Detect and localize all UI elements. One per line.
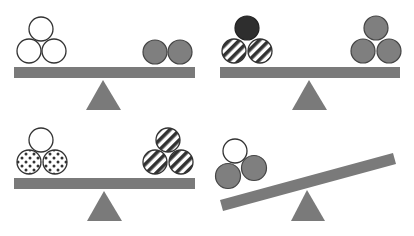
diagram-canvas (0, 0, 414, 236)
panel-2 (220, 16, 401, 110)
left-pan-balls (216, 139, 267, 189)
beam (220, 67, 400, 78)
striped-ball (156, 128, 180, 152)
left-pan-balls (17, 17, 66, 63)
striped-ball (143, 150, 167, 174)
fulcrum-triangle (291, 190, 325, 221)
beam (14, 67, 195, 78)
dotted-ball (43, 150, 67, 174)
left-pan-balls (17, 128, 67, 174)
striped-ball (248, 39, 272, 63)
gray-ball (377, 39, 401, 63)
gray-ball (143, 40, 167, 64)
dotted-ball (17, 150, 41, 174)
panel-1 (14, 17, 195, 110)
fulcrum-triangle (292, 80, 327, 110)
right-pan-balls (143, 40, 192, 64)
fulcrum-triangle (86, 80, 121, 110)
balance-scale-diagram (0, 0, 414, 236)
gray-ball (242, 156, 267, 181)
striped-ball (169, 150, 193, 174)
white-ball (17, 39, 41, 63)
right-pan-balls (143, 128, 193, 174)
white-ball (223, 139, 247, 163)
left-pan-balls (222, 16, 272, 63)
striped-ball (222, 39, 246, 63)
panel-3 (14, 128, 195, 221)
white-ball (42, 39, 66, 63)
gray-ball (364, 16, 388, 40)
white-ball (29, 128, 53, 152)
white-ball (29, 17, 53, 41)
gray-ball (168, 40, 192, 64)
gray-ball (216, 164, 241, 189)
black-ball (235, 16, 259, 40)
right-pan-balls (351, 16, 401, 63)
beam (14, 178, 195, 189)
panel-4 (216, 139, 397, 221)
fulcrum-triangle (87, 191, 122, 221)
gray-ball (351, 39, 375, 63)
